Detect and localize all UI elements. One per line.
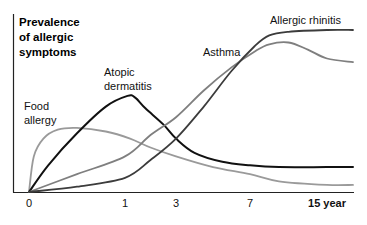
series-line-asthma [29,42,353,192]
series-label-atopic-dermatitis-2: dermatitis [104,80,152,92]
title-line-1: Prevalence [19,16,80,28]
x-tick-15: 15 year [308,197,347,209]
series-line-atopic-dermatitis [29,95,353,192]
x-tick-1: 1 [122,197,128,209]
chart-title: Prevalence of allergic symptoms [19,16,80,58]
series-label-food-allergy-2: allergy [24,114,57,126]
series-label-allergic-rhinitis: Allergic rhinitis [270,14,341,26]
series-label-atopic-dermatitis-1: Atopic [104,66,135,78]
x-tick-3: 3 [173,197,179,209]
series-line-food-allergy [29,128,353,192]
title-line-2: of allergic [19,31,74,43]
series-label-asthma: Asthma [203,46,241,58]
series-label-food-allergy-1: Food [24,100,49,112]
x-tick-labels: 0 1 3 7 15 year [26,197,347,209]
chart: Prevalence of allergic symptoms Food all… [0,0,367,225]
x-tick-0: 0 [26,197,32,209]
series-lines [29,30,353,192]
title-line-3: symptoms [19,46,77,58]
x-tick-7: 7 [247,197,253,209]
